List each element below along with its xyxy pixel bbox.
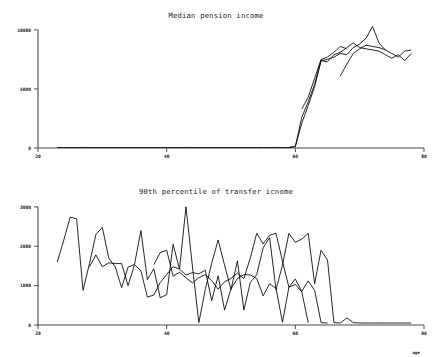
y-tick-label: 2000: [20, 244, 31, 249]
x-tick-label: 80: [421, 331, 427, 336]
x-tick-label: 80: [421, 154, 427, 159]
series-line-series-1: [57, 207, 411, 323]
y-axis-ticks-bottom: 0100020003000: [20, 205, 38, 328]
data-series-group-top: [57, 26, 411, 147]
x-tick-label: 60: [293, 154, 299, 159]
x-tick-label: 40: [164, 331, 170, 336]
series-line-series-2: [89, 255, 327, 323]
axis-spine-bottom: [38, 207, 424, 325]
x-axis-ticks-top: 20406080: [35, 148, 427, 159]
axis-spine-top: [38, 30, 424, 148]
x-axis-ticks-bottom: 20406080: [35, 325, 427, 336]
series-line-series-1: [57, 26, 411, 147]
y-tick-label: 5000: [20, 87, 31, 92]
figure-container: Median pension income 0500010000 2040608…: [0, 0, 433, 357]
chart-panel-transfer-income: 90th percentile of transfer icnome 01000…: [0, 180, 433, 357]
y-axis-ticks-top: 0500010000: [17, 28, 38, 151]
y-tick-label: 0: [28, 323, 31, 328]
series-line-series-3: [302, 46, 347, 109]
data-series-group-bottom: [57, 207, 411, 323]
y-tick-label: 0: [28, 146, 31, 151]
median-pension-income-plot: Median pension income 0500010000 2040608…: [0, 0, 433, 180]
x-tick-label: 60: [293, 331, 299, 336]
x-tick-label: 20: [35, 331, 41, 336]
transfer-income-plot: 90th percentile of transfer icnome 01000…: [0, 180, 433, 357]
y-tick-label: 3000: [20, 205, 31, 210]
chart-panel-median-pension-income: Median pension income 0500010000 2040608…: [0, 0, 433, 180]
chart-title-bottom: 90th percentile of transfer icnome: [139, 187, 293, 196]
x-tick-label: 20: [35, 154, 41, 159]
y-tick-label: 10000: [17, 28, 31, 33]
y-tick-label: 1000: [20, 283, 31, 288]
series-line-series-4: [340, 45, 385, 76]
x-axis-label: age: [412, 350, 420, 355]
x-tick-label: 40: [164, 154, 170, 159]
chart-title-top: Median pension income: [168, 11, 263, 20]
